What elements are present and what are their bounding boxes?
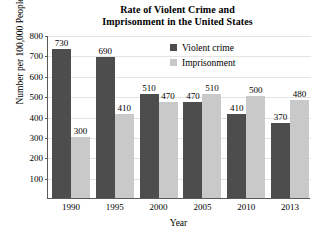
- bar-value-label: 510: [142, 83, 156, 93]
- bar-violent-crime: 730: [52, 49, 71, 198]
- bar-violent-crime: 410: [227, 114, 246, 198]
- chart-title-line-1: Rate of Violent Crime and: [40, 4, 315, 16]
- bar-group: 3704802013: [271, 35, 309, 198]
- y-axis-title: Number per 100,000 People: [15, 0, 25, 127]
- x-tick-label: 1990: [62, 202, 80, 212]
- x-tick-label: 2010: [237, 202, 255, 212]
- bar-imprisonment: 410: [115, 114, 134, 198]
- legend-swatch-icon-violent-crime: [170, 44, 177, 51]
- x-tick-label: 2005: [193, 202, 211, 212]
- x-tick-label: 2000: [150, 202, 168, 212]
- bar-value-label: 500: [249, 85, 263, 95]
- legend-label-imprisonment: Imprisonment: [182, 58, 235, 68]
- y-tick-mark: [45, 158, 48, 159]
- bar-chart-figure: Rate of Violent Crime and Imprisonment i…: [0, 0, 323, 239]
- y-tick-mark: [45, 36, 48, 37]
- bar-value-label: 410: [118, 103, 132, 113]
- bar-violent-crime: 370: [271, 123, 290, 198]
- chart-title-line-2: Imprisonment in the United States: [40, 16, 315, 28]
- bar-value-label: 690: [99, 46, 113, 56]
- y-tick-label: 400: [30, 113, 44, 123]
- bar-value-label: 300: [74, 126, 88, 136]
- y-tick-mark: [45, 138, 48, 139]
- chart-title: Rate of Violent Crime and Imprisonment i…: [40, 4, 315, 28]
- bar-group: 6904101995: [96, 35, 134, 198]
- bar-value-label: 470: [186, 91, 200, 101]
- legend-swatch-icon-imprisonment: [170, 59, 177, 66]
- bar-imprisonment: 480: [290, 100, 309, 198]
- bar-value-label: 480: [293, 89, 307, 99]
- y-tick-mark: [45, 77, 48, 78]
- y-tick-label: 500: [30, 92, 44, 102]
- bar-value-label: 470: [161, 91, 175, 101]
- legend-label-violent-crime: Violent crime: [182, 43, 234, 53]
- bar-imprisonment: 300: [71, 137, 90, 198]
- y-tick-label: 600: [30, 72, 44, 82]
- y-tick-mark: [45, 97, 48, 98]
- y-tick-label: 100: [30, 174, 44, 184]
- y-tick-mark: [45, 179, 48, 180]
- bar-imprisonment: 470: [159, 102, 178, 198]
- y-tick-mark: [45, 56, 48, 57]
- bar-group: 7303001990: [52, 35, 90, 198]
- bar-violent-crime: 510: [140, 94, 159, 198]
- bar-violent-crime: 690: [96, 57, 115, 198]
- y-tick-mark: [45, 118, 48, 119]
- bar-value-label: 510: [205, 83, 219, 93]
- bar-value-label: 730: [55, 38, 69, 48]
- y-tick-label: 200: [30, 153, 44, 163]
- x-axis-title: Year: [47, 218, 310, 228]
- y-tick-label: 300: [30, 133, 44, 143]
- y-tick-label: 800: [30, 31, 44, 41]
- legend-item-imprisonment: Imprisonment: [170, 56, 235, 69]
- legend-item-violent-crime: Violent crime: [170, 41, 235, 54]
- x-tick-label: 2013: [281, 202, 299, 212]
- bar-imprisonment: 510: [202, 94, 221, 198]
- chart-legend: Violent crime Imprisonment: [170, 41, 235, 71]
- bar-violent-crime: 470: [183, 102, 202, 198]
- bar-value-label: 410: [230, 103, 244, 113]
- bar-value-label: 370: [274, 112, 288, 122]
- bar-imprisonment: 500: [246, 96, 265, 198]
- x-tick-label: 1995: [106, 202, 124, 212]
- y-tick-label: 700: [30, 51, 44, 61]
